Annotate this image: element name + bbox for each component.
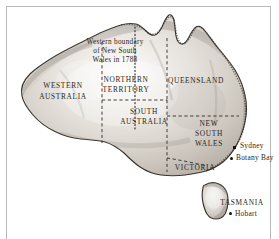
- city-label-hobart: Hobart: [235, 210, 257, 218]
- state-label-western-australia-line2: AUSTRALIA: [39, 93, 87, 101]
- annotation-line-1: Western boundary: [86, 38, 143, 47]
- state-label-queensland: QUEENSLAND: [168, 77, 224, 85]
- state-label-northern-territory-line1: NORTHERN: [104, 76, 149, 84]
- annotation-nsw-1788-boundary: Western boundary of New South Wales in 1…: [86, 38, 143, 65]
- state-label-northern-territory-line2: TERRITORY: [103, 86, 150, 94]
- annotation-line-3: Wales in 1788: [86, 56, 143, 65]
- annotation-line-2: of New South: [86, 47, 143, 56]
- state-label-new-south-wales-line1: NEW: [200, 120, 219, 128]
- city-label-sydney: Sydney: [240, 142, 264, 150]
- state-label-tasmania: TASMANIA: [220, 199, 264, 207]
- state-label-victoria: VICTORIA: [175, 164, 215, 172]
- city-label-botany-bay: Botany Bay: [236, 154, 274, 162]
- state-label-south-australia-line2: AUSTRALIA: [120, 118, 168, 126]
- sydney-marker-icon: [233, 146, 236, 149]
- map-figure: Western boundary of New South Wales in 1…: [0, 0, 279, 239]
- state-label-south-australia-line1: SOUTH: [130, 108, 158, 116]
- state-label-new-south-wales-line2: SOUTH: [195, 130, 223, 138]
- state-label-western-australia-line1: WESTERN: [43, 82, 82, 90]
- state-label-new-south-wales-line3: WALES: [195, 140, 223, 148]
